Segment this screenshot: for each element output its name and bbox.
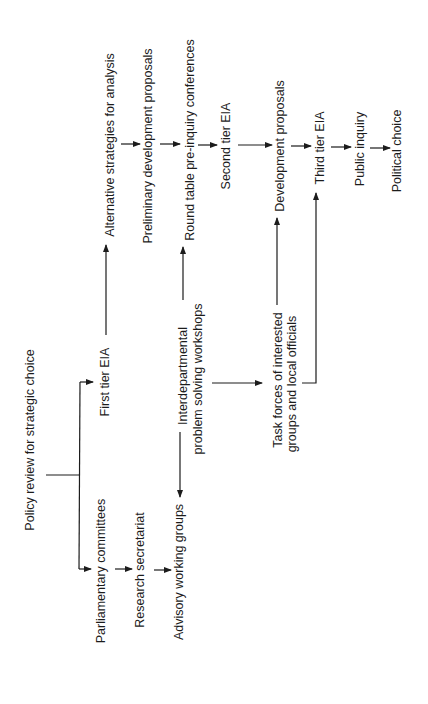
node-development-proposals: Development proposals [273,80,287,211]
node-task-forces-line2: groups and local officials [285,316,299,453]
node-policy-review: Policy review for strategic choice [23,349,37,530]
node-preliminary-proposals: Preliminary development proposals [141,48,155,243]
node-interdepartmental-line2: problem solving workshops [191,304,205,455]
node-interdepartmental-line1: Interdepartmental [176,327,190,425]
node-task-forces-line1: Task forces of interested [271,312,285,448]
node-parliamentary-committees: Parliamentary committees [94,499,108,644]
node-first-tier-eia: First tier EIA [98,347,112,416]
node-second-tier-eia: Second tier EIA [219,102,233,190]
connector-policy-vertical [79,382,80,569]
node-political-choice: Political choice [390,110,404,193]
arrow-task-forces-to-third-tier [302,193,316,383]
diagram-svg: Policy review for strategic choice First… [0,0,428,704]
node-advisory-working-groups: Advisory working groups [172,504,186,640]
node-third-tier-eia: Third tier EIA [313,111,327,185]
node-public-inquiry: Public inquiry [353,111,367,186]
node-round-table: Round table pre-inquiry conferences [183,39,197,241]
node-alternative-strategies: Alternative strategies for analysis [103,53,117,236]
node-research-secretariat: Research secretariat [133,512,147,628]
flowchart-diagram: Policy review for strategic choice First… [0,0,428,704]
